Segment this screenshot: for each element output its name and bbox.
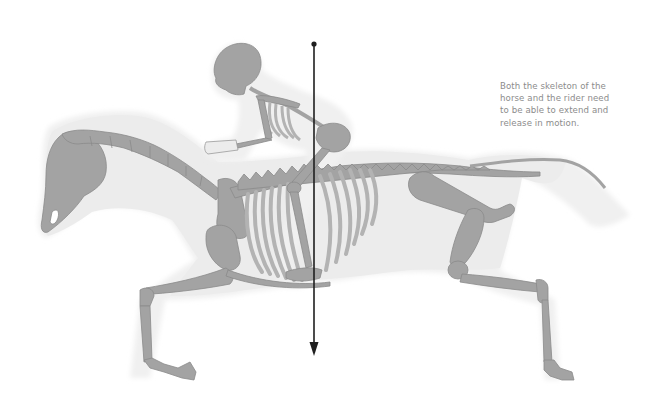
caption-text: Both the skeleton of the horse and the r… [500,80,650,129]
caption-line-3: to be able to extend and [500,104,650,116]
caption-line-4: release in motion. [500,117,650,129]
caption-line-1: Both the skeleton of the [500,80,650,92]
caption-line-2: horse and the rider need [500,92,650,104]
rider-foot [286,268,322,281]
arrow-head-icon [310,342,319,356]
horse-rider-skeleton-diagram [0,0,654,405]
